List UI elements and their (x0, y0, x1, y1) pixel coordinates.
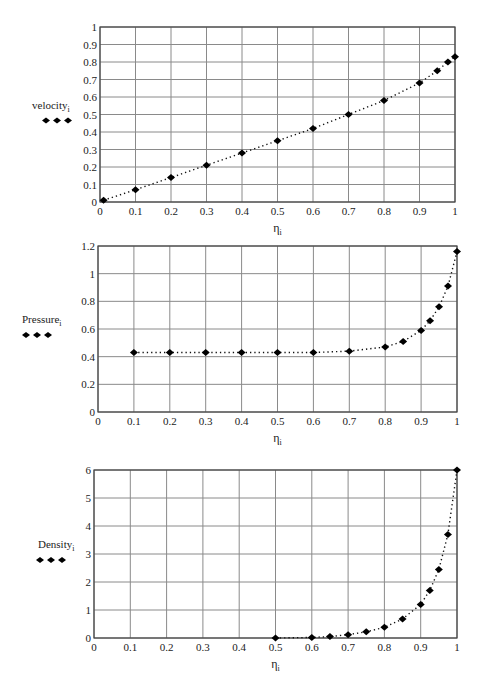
y-tick-label: 0.6 (83, 91, 97, 103)
figure: 00.10.20.30.40.50.60.70.80.9100.10.20.30… (0, 0, 483, 683)
data-point (453, 467, 461, 474)
data-point (444, 283, 452, 290)
y-tick-label: 0.3 (83, 144, 97, 156)
x-tick-label: 0.2 (163, 415, 177, 427)
y-axis-label: velocityi (32, 99, 70, 114)
x-tick-label: 0.8 (378, 641, 392, 653)
y-tick-label: 0.7 (83, 74, 97, 86)
y-tick-label: 0.4 (81, 351, 95, 363)
data-point (309, 349, 317, 356)
data-point (426, 317, 434, 324)
grid (94, 470, 457, 638)
x-tick-label: 0.6 (305, 641, 319, 653)
data-point (100, 197, 108, 204)
x-tick-label: 0.9 (414, 641, 428, 653)
data-point (345, 348, 353, 355)
y-tick-label: 6 (86, 464, 92, 476)
x-tick-label: 0.1 (127, 415, 141, 427)
data-point (435, 566, 443, 573)
x-tick-label: 0 (95, 415, 101, 427)
data-point (417, 601, 425, 608)
x-tick-label: 0.8 (378, 415, 392, 427)
y-tick-label: 5 (86, 492, 92, 504)
x-axis-label: ηi (271, 657, 280, 673)
x-tick-label: 0.8 (377, 205, 391, 217)
data-point (444, 531, 452, 538)
data-point (451, 53, 459, 60)
x-tick-label: 0.3 (199, 415, 213, 427)
legend-marker (22, 332, 52, 338)
y-tick-label: 0.5 (83, 109, 97, 121)
x-tick-label: 0 (97, 205, 103, 217)
x-tick-label: 0.7 (341, 641, 355, 653)
data-point (274, 349, 282, 356)
y-tick-label: 1 (90, 268, 96, 280)
data-point (381, 343, 389, 350)
x-axis-label: ηi (273, 221, 282, 237)
y-tick-label: 1.2 (81, 240, 95, 252)
data-point (202, 349, 210, 356)
x-tick-label: 1 (454, 641, 460, 653)
y-tick-label: 4 (86, 520, 92, 532)
data-point (380, 624, 388, 631)
x-axis-label: ηi (273, 431, 282, 447)
data-point (362, 628, 370, 635)
data-point (380, 97, 388, 104)
y-tick-label: 0.8 (83, 56, 97, 68)
data-point (453, 248, 461, 255)
data-point (435, 303, 443, 310)
grid (98, 246, 457, 412)
x-tick-label: 1 (452, 205, 458, 217)
y-tick-label: 0 (90, 406, 96, 418)
x-tick-label: 0.9 (413, 205, 427, 217)
x-tick-label: 0.1 (129, 205, 143, 217)
x-tick-label: 0.3 (196, 641, 210, 653)
data-line (104, 57, 455, 201)
x-tick-label: 0 (91, 641, 97, 653)
x-tick-label: 0.1 (123, 641, 137, 653)
data-markers (100, 53, 459, 204)
x-tick-label: 0.2 (160, 641, 174, 653)
y-tick-label: 0.1 (83, 179, 97, 191)
x-tick-label: 0.4 (235, 205, 249, 217)
data-point (426, 587, 434, 594)
legend-marker (42, 118, 72, 124)
x-tick-label: 1 (454, 415, 460, 427)
x-tick-label: 0.5 (269, 641, 283, 653)
x-tick-label: 0.7 (342, 205, 356, 217)
data-point (132, 186, 140, 193)
legend-marker (36, 557, 66, 563)
data-point (238, 349, 246, 356)
y-tick-label: 1 (86, 604, 92, 616)
data-line (134, 252, 457, 353)
x-tick-label: 0.6 (306, 205, 320, 217)
x-tick-label: 0.7 (342, 415, 356, 427)
y-tick-label: 0.2 (81, 378, 95, 390)
x-tick-label: 0.4 (235, 415, 249, 427)
chart-1: 00.10.20.30.40.50.60.70.80.9100.10.20.30… (32, 21, 459, 237)
y-tick-label: 0 (86, 632, 92, 644)
x-tick-label: 0.4 (232, 641, 246, 653)
x-tick-label: 0.5 (271, 205, 285, 217)
x-tick-label: 0.6 (307, 415, 321, 427)
data-point (309, 125, 317, 132)
y-tick-label: 0.8 (81, 295, 95, 307)
chart-2: 00.10.20.30.40.50.60.70.80.9100.20.40.60… (22, 240, 461, 447)
data-point (433, 67, 441, 74)
y-tick-label: 0.4 (83, 126, 97, 138)
data-point (345, 111, 353, 118)
data-point (344, 631, 352, 638)
data-point (308, 634, 316, 641)
y-tick-label: 0.6 (81, 323, 95, 335)
y-tick-label: 0.9 (83, 39, 97, 51)
grid (100, 27, 455, 202)
data-point (417, 327, 425, 334)
data-point (238, 150, 246, 157)
y-axis-label: Pressurei (22, 313, 62, 328)
data-markers (130, 248, 461, 356)
y-tick-label: 3 (86, 548, 92, 560)
x-tick-label: 0.2 (164, 205, 178, 217)
data-point (274, 137, 282, 144)
y-tick-label: 1 (92, 21, 98, 33)
chart-3: 00.10.20.30.40.50.60.70.80.910123456ηiDe… (36, 464, 461, 673)
